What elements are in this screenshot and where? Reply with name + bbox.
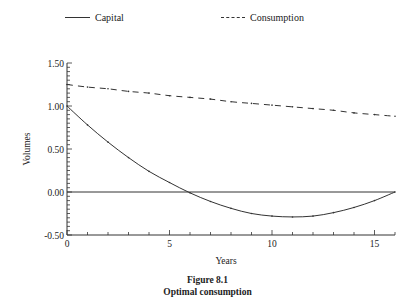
data-point-marker (128, 157, 130, 159)
data-point-marker (353, 207, 355, 209)
data-point-marker (87, 124, 89, 126)
series-consumption-line (67, 85, 395, 117)
x-tick-label: 0 (65, 239, 70, 249)
data-point-marker (271, 215, 273, 217)
x-tick-label: 15 (370, 239, 380, 249)
data-point-marker (210, 98, 212, 100)
figure-number: Figure 8.1 (0, 275, 415, 285)
data-point-marker (230, 208, 232, 210)
data-point-marker (148, 171, 150, 173)
data-point-marker (66, 84, 68, 86)
data-point-marker (66, 105, 68, 107)
data-point-marker (251, 213, 253, 215)
data-point-marker (333, 110, 335, 112)
data-point-marker (271, 104, 273, 106)
y-tick-label: 0.50 (47, 145, 64, 155)
data-point-marker (169, 95, 171, 97)
data-point-marker (189, 192, 191, 194)
data-point-marker (374, 114, 376, 116)
data-point-marker (107, 88, 109, 90)
data-point-marker (87, 86, 89, 88)
data-point-marker (394, 191, 396, 193)
data-point-marker (353, 112, 355, 114)
data-point-marker (374, 200, 376, 202)
data-point-marker (292, 216, 294, 218)
data-point-marker (230, 101, 232, 103)
y-tick-label: 1.50 (47, 59, 64, 69)
series-capital-line (67, 106, 395, 217)
data-point-marker (107, 141, 109, 143)
axes: -0.500.000.501.001.50051015 (44, 59, 396, 250)
data-point-marker (312, 108, 314, 110)
data-point-marker (394, 116, 396, 118)
data-point-marker (148, 92, 150, 94)
x-tick-label: 10 (267, 239, 277, 249)
y-tick-label: 1.00 (47, 102, 64, 112)
data-point-marker (292, 106, 294, 108)
x-axis-label: Years (215, 256, 237, 266)
figure-title: Optimal consumption (0, 287, 415, 297)
y-axis-label: Volumes (22, 132, 32, 165)
data-point-marker (169, 182, 171, 184)
data-point-marker (189, 97, 191, 99)
data-point-marker (312, 215, 314, 217)
data-point-marker (251, 103, 253, 105)
data-point-marker (333, 212, 335, 214)
y-tick-label: 0.00 (47, 188, 64, 198)
y-tick-label: -0.50 (44, 231, 64, 241)
line-chart: -0.500.000.501.001.50051015 Volumes Year… (0, 0, 415, 270)
x-tick-label: 5 (167, 239, 172, 249)
data-point-marker (128, 91, 130, 93)
data-point-marker (210, 201, 212, 203)
